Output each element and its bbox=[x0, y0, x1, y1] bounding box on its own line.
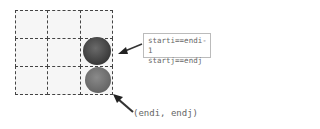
arrow-line-annotation bbox=[125, 44, 142, 51]
end-position-label: (endi, endj) bbox=[133, 108, 198, 118]
condition-line-1: starti==endi-1 bbox=[148, 36, 206, 56]
condition-line-2: startj==endj bbox=[148, 56, 206, 66]
arrow-line-end bbox=[118, 99, 133, 112]
arrow-head-icon bbox=[118, 47, 128, 54]
condition-note: starti==endi-1 startj==endj bbox=[143, 33, 211, 58]
